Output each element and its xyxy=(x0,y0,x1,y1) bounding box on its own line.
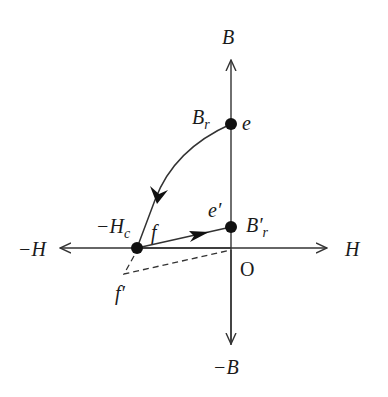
label-f: f xyxy=(151,221,159,244)
point-e xyxy=(225,118,237,130)
label-b-positive: B xyxy=(222,26,234,48)
label-e: e xyxy=(242,112,251,134)
label-origin: O xyxy=(240,258,254,280)
label-f-prime: f′ xyxy=(115,282,126,305)
point-e-prime xyxy=(225,221,237,233)
recoil-arrowhead-icon xyxy=(189,231,209,242)
label-h-positive: H xyxy=(344,238,361,260)
label-e-prime: e′ xyxy=(208,199,222,221)
label-br-prime: B′r xyxy=(246,214,269,240)
bh-diagram: B −B H −H O Br e −Hc f e′ B′r f′ xyxy=(0,0,388,397)
label-b-negative: −B xyxy=(213,356,239,378)
dashed-projection xyxy=(124,250,231,274)
point-f xyxy=(131,242,143,254)
label-h-negative: −H xyxy=(18,238,47,260)
label-minus-hc: −Hc xyxy=(96,215,131,241)
label-br: Br xyxy=(192,106,210,132)
